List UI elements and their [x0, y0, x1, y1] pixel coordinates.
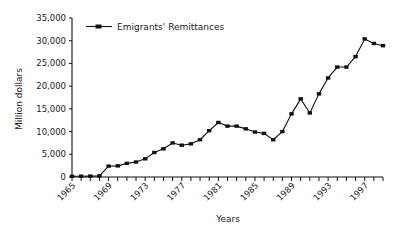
data-point-marker [308, 111, 312, 114]
x-tick-label: 1965 [55, 180, 77, 202]
y-tick-label: 15,000 [36, 104, 66, 114]
data-point-marker [344, 65, 348, 68]
data-point-marker [216, 121, 220, 124]
x-axis-tick-labels: 196519691973197719811985198919931997 [55, 180, 370, 202]
data-point-marker [326, 76, 330, 79]
data-point-marker [134, 160, 138, 163]
data-point-marker [353, 55, 357, 58]
chart-container: 05,00010,00015,00020,00025,00030,00035,0… [0, 0, 401, 234]
x-tick-label: 1977 [165, 180, 187, 202]
data-point-marker [381, 44, 385, 47]
y-tick-label: 35,000 [36, 13, 66, 23]
legend-label: Emigrants' Remittances [117, 22, 225, 32]
x-axis-title: Years [215, 214, 240, 224]
x-tick-label: 1997 [348, 180, 370, 202]
data-point-marker [70, 175, 74, 178]
data-point-marker [271, 138, 275, 141]
data-point-marker [125, 162, 129, 165]
x-axis-ticks [72, 177, 383, 181]
data-point-marker [79, 174, 83, 177]
data-point-marker [189, 142, 193, 145]
data-point-marker [143, 157, 147, 160]
x-tick-label: 1981 [201, 180, 223, 202]
x-tick-label: 1989 [275, 180, 297, 202]
data-point-marker [161, 147, 165, 150]
data-point-marker [289, 112, 293, 115]
data-point-marker [97, 174, 101, 177]
remittances-line-chart: 05,00010,00015,00020,00025,00030,00035,0… [0, 0, 401, 234]
data-point-marker [335, 65, 339, 68]
data-point-marker [262, 132, 266, 135]
chart-axes [72, 18, 383, 177]
y-tick-label: 5,000 [42, 149, 66, 159]
y-tick-label: 30,000 [36, 36, 66, 46]
data-point-marker [207, 129, 211, 132]
y-tick-label: 10,000 [36, 127, 66, 137]
data-point-marker [152, 151, 156, 154]
data-point-marker [280, 130, 284, 133]
data-point-marker [180, 144, 184, 147]
series-markers [70, 37, 385, 178]
chart-legend: Emigrants' Remittances [86, 22, 225, 32]
data-point-marker [198, 138, 202, 141]
data-point-marker [244, 127, 248, 130]
x-tick-label: 1969 [92, 180, 114, 202]
legend-marker-swatch [96, 25, 102, 29]
data-point-marker [170, 141, 174, 144]
y-axis-tick-labels: 05,00010,00015,00020,00025,00030,00035,0… [36, 13, 66, 182]
y-tick-label: 0 [61, 172, 66, 182]
data-point-marker [225, 124, 229, 127]
data-point-marker [317, 92, 321, 95]
data-point-marker [253, 130, 257, 133]
x-tick-label: 1993 [311, 180, 333, 202]
x-tick-label: 1985 [238, 180, 260, 202]
data-point-marker [298, 97, 302, 100]
data-point-marker [372, 42, 376, 45]
y-tick-label: 20,000 [36, 81, 66, 91]
data-point-marker [116, 164, 120, 167]
y-axis-title: Million dollars [14, 68, 24, 130]
y-tick-label: 25,000 [36, 58, 66, 68]
data-point-marker [88, 174, 92, 177]
x-tick-label: 1973 [128, 180, 150, 202]
data-point-marker [106, 164, 110, 167]
data-point-marker [234, 124, 238, 127]
series-line-emigrants-remittances [72, 39, 383, 176]
data-point-marker [363, 37, 367, 40]
